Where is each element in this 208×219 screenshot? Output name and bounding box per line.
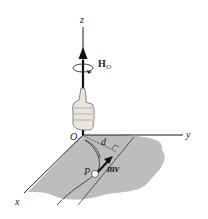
x-axis-label: x — [14, 196, 20, 207]
angular-momentum-subscript: O — [106, 63, 111, 71]
arrowhead-icon — [79, 47, 88, 59]
angular-momentum-label: H — [98, 58, 106, 69]
right-hand-icon — [73, 88, 96, 130]
angular-momentum-diagram: z y x O H O d P mv — [0, 0, 208, 219]
particle-label: P — [83, 166, 90, 177]
momentum-label: mv — [107, 163, 120, 174]
shaded-plane — [28, 135, 165, 200]
particle-p — [92, 171, 99, 178]
z-axis-label: z — [79, 14, 84, 25]
origin-label: O — [70, 131, 77, 142]
y-axis-label: y — [185, 129, 191, 140]
